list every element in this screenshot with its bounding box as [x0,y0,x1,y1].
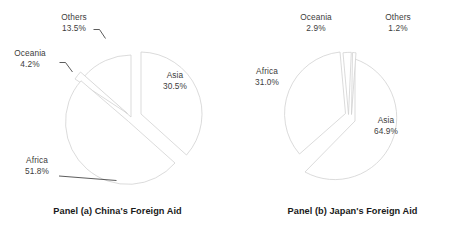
label-others-japan-name: Others [385,12,411,22]
label-asia-china: Asia 30.5% [152,70,198,91]
leader-line-oceania-china [60,63,73,73]
label-asia-china-value: 30.5% [152,81,198,92]
label-oceania-japan: Oceania 2.9% [288,12,344,33]
figure-two-pie-charts: Others 13.5% Oceania 4.2% Asia 30.5% Afr… [0,0,470,238]
label-africa-japan: Africa 31.0% [241,66,293,87]
label-others-japan: Others 1.2% [373,12,423,33]
panel-b-caption: Panel (b) Japan's Foreign Aid [235,206,470,216]
panel-b-japan: Oceania 2.9% Others 1.2% Africa 31.0% As… [235,0,470,238]
label-africa-china-name: Africa [26,155,48,165]
label-oceania-china-value: 4.2% [2,59,58,70]
label-others-china-name: Others [61,12,87,22]
panel-a-china: Others 13.5% Oceania 4.2% Asia 30.5% Afr… [0,0,235,238]
pie-slice-africa-japan[interactable] [285,52,346,154]
pie-slice-asia-china[interactable] [141,52,202,155]
label-oceania-china-name: Oceania [14,48,46,58]
pie-chart-china [0,0,235,238]
label-africa-china: Africa 51.8% [13,155,61,176]
panel-a-caption: Panel (a) China's Foreign Aid [0,206,235,216]
label-asia-china-name: Asia [167,70,184,80]
label-asia-japan: Asia 64.9% [361,115,411,136]
label-oceania-japan-value: 2.9% [288,23,344,34]
label-africa-japan-value: 31.0% [241,77,293,88]
label-others-china-value: 13.5% [46,23,102,34]
label-others-japan-value: 1.2% [373,23,423,34]
label-africa-japan-name: Africa [256,66,278,76]
label-asia-japan-value: 64.9% [361,126,411,137]
label-oceania-japan-name: Oceania [300,12,332,22]
label-asia-japan-name: Asia [378,115,395,125]
label-africa-china-value: 51.8% [13,166,61,177]
label-others-china: Others 13.5% [46,12,102,33]
pie-chart-japan [235,0,470,238]
label-oceania-china: Oceania 4.2% [2,48,58,69]
